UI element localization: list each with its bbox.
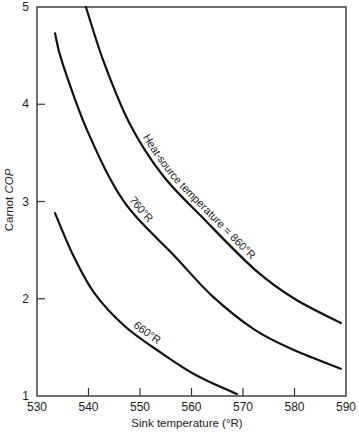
x-axis-title: Sink temperature (°R) [131, 417, 242, 429]
curve-label-text: Heat-source temperature = 860°R [141, 132, 258, 261]
y-tick-label: 2 [22, 292, 29, 306]
x-tick-label: 560 [181, 400, 201, 414]
x-tick-label: 540 [78, 400, 98, 414]
y-axis-title-plain: Carnot [3, 194, 15, 232]
y-axis-title: Carnot COP [3, 168, 15, 231]
y-axis-title-italic: COP [3, 168, 15, 193]
x-tick-label: 580 [284, 400, 304, 414]
axis-ticks: 53054055056057058059012345 [22, 0, 356, 414]
y-tick-label: 3 [22, 195, 29, 209]
series-line-860R [86, 7, 341, 323]
y-tick-label: 5 [22, 0, 29, 14]
carnot-cop-chart: 53054055056057058059012345 Heat-source t… [0, 0, 359, 432]
y-tick-label: 4 [22, 97, 29, 111]
x-tick-label: 590 [336, 400, 356, 414]
curve-label-text: 760°R [127, 194, 155, 224]
curve-label-760R: 760°R [127, 194, 155, 224]
x-tick-label: 550 [130, 400, 150, 414]
curve-label-660R: 660°R [132, 319, 164, 347]
curve-label-text: 660°R [132, 319, 164, 347]
curve-labels: Heat-source temperature = 860°R760°R660°… [127, 132, 258, 346]
x-tick-label: 530 [27, 400, 47, 414]
curve-label-860R: Heat-source temperature = 860°R [141, 132, 258, 261]
y-tick-label: 1 [22, 389, 29, 403]
series-line-660R [55, 213, 237, 394]
x-tick-label: 570 [233, 400, 253, 414]
